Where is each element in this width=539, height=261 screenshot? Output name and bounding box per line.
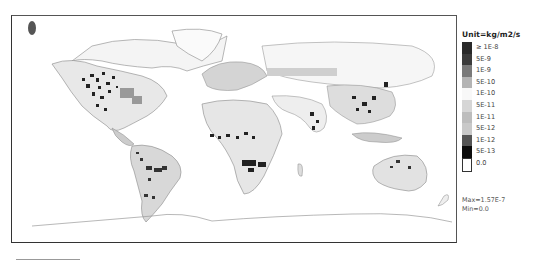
legend-swatch xyxy=(462,77,472,89)
colorbar-legend: Unit=kg/m2/s ≥ 1E-8 5E-9 1E-9 5E-10 1E-1… xyxy=(462,30,539,42)
legend-label: 5E-13 xyxy=(476,148,495,155)
legend-swatch xyxy=(462,65,472,77)
legend-label: 5E-11 xyxy=(476,102,495,109)
world-map-graphic xyxy=(12,16,457,243)
scale-bar-line xyxy=(16,259,80,260)
legend-swatch xyxy=(462,112,472,124)
legend-swatch xyxy=(462,88,472,100)
legend-title: Unit=kg/m2/s xyxy=(462,30,539,39)
legend-label: 5E-10 xyxy=(476,79,495,86)
legend-swatch xyxy=(462,42,472,54)
legend-label: 1E-11 xyxy=(476,114,495,121)
min-value-label: Min=0.0 xyxy=(462,205,489,213)
legend-swatch xyxy=(462,135,472,147)
legend-swatch xyxy=(462,54,472,66)
legend-label: 5E-9 xyxy=(476,56,491,63)
legend-swatch xyxy=(462,158,472,172)
legend-label: ≥ 1E-8 xyxy=(476,44,499,51)
legend-swatch xyxy=(462,100,472,112)
legend-label: 1E-10 xyxy=(476,90,495,97)
world-map xyxy=(11,15,457,243)
legend-swatch xyxy=(462,146,472,158)
legend-swatch xyxy=(462,123,472,135)
legend-label: 1E-9 xyxy=(476,67,491,74)
inset-icon xyxy=(28,21,36,35)
legend-label: 0.0 xyxy=(476,160,487,167)
legend-label: 5E-12 xyxy=(476,125,495,132)
max-value-label: Max=1.57E-7 xyxy=(462,196,505,204)
legend-label: 1E-12 xyxy=(476,137,495,144)
